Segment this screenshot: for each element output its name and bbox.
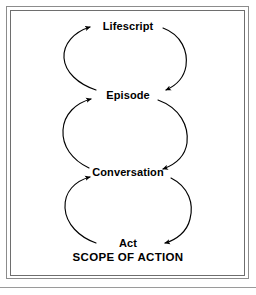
stage-label-episode: Episode	[0, 89, 256, 101]
page-separator-rule	[0, 287, 256, 288]
stage-label-conversation: Conversation	[0, 166, 256, 178]
stage-label-act: Act	[0, 237, 256, 249]
figure-root: Lifescript Episode Conversation Act SCOP…	[0, 0, 256, 295]
figure-caption: SCOPE OF ACTION	[0, 251, 256, 263]
stage-label-lifescript: Lifescript	[0, 20, 256, 32]
